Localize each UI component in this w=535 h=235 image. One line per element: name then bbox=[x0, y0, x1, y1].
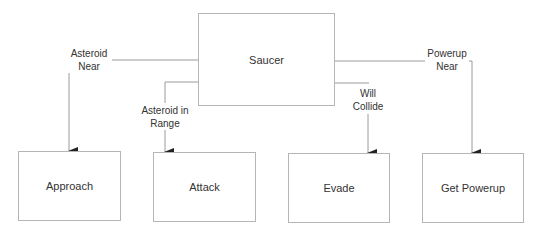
edge-asteroid-in-range bbox=[165, 82, 198, 103]
transition-label-will-collide: Will Collide bbox=[350, 87, 386, 113]
state-get-powerup: Get Powerup bbox=[422, 153, 524, 223]
state-get-powerup-label: Get Powerup bbox=[441, 182, 505, 194]
state-approach-label: Approach bbox=[46, 180, 93, 192]
transition-label-powerup-near: Powerup Near bbox=[425, 47, 469, 73]
state-evade-label: Evade bbox=[323, 182, 354, 194]
state-saucer: Saucer bbox=[198, 13, 335, 106]
state-attack-label: Attack bbox=[189, 181, 220, 193]
state-attack: Attack bbox=[153, 152, 256, 222]
transition-label-asteroid-near: Asteroid Near bbox=[66, 47, 112, 73]
state-saucer-label: Saucer bbox=[249, 54, 284, 66]
state-evade: Evade bbox=[288, 153, 390, 223]
state-approach: Approach bbox=[18, 151, 121, 221]
transition-label-asteroid-in-range: Asteroid in Range bbox=[137, 104, 193, 130]
edge-powerup-near-down bbox=[466, 61, 472, 153]
